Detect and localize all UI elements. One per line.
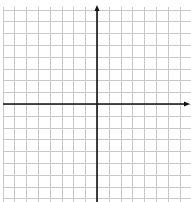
coordinate-plane — [0, 0, 191, 202]
plot-background — [0, 0, 191, 202]
